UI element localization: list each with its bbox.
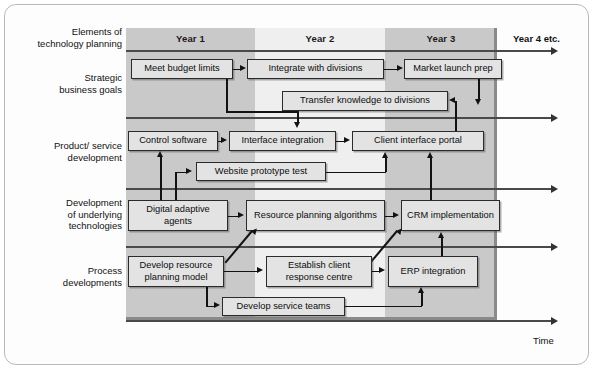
- time-axis-label: Time: [533, 335, 554, 346]
- row-label-line1: Process: [10, 265, 122, 277]
- row-label-line2: development: [10, 152, 122, 164]
- conn-interface-portal-arrow-icon: [344, 137, 350, 143]
- conn-erp-crm-arrow-icon: [438, 232, 444, 238]
- conn-agents-up2: [175, 172, 177, 200]
- row-divider-1: [126, 117, 551, 119]
- box-resource-planning-algorithms[interactable]: Resource planning algorithms: [246, 200, 385, 231]
- conn-portal-left-run10: [455, 101, 456, 103]
- box-label: CRM implementation: [407, 210, 494, 222]
- conn-integrate-market-arrow-icon: [397, 65, 403, 71]
- box-interface-integration[interactable]: Interface integration: [229, 131, 336, 151]
- conn-dst-erp-arrow-icon: [418, 287, 424, 293]
- conn-portal-up: [455, 101, 457, 131]
- row-label-line1: Product/ service: [10, 140, 122, 152]
- conn-website-right: [326, 172, 386, 174]
- box-label: Client interface portal: [374, 135, 462, 147]
- row-label-strategic-business-goals: Strategic business goals: [10, 72, 122, 95]
- box-develop-resource-planning-model[interactable]: Develop resource planning model: [128, 256, 224, 287]
- box-crm-implementation[interactable]: CRM implementation: [401, 200, 500, 231]
- box-integrate-with-divisions[interactable]: Integrate with divisions: [247, 59, 384, 79]
- row-divider-2: [126, 188, 551, 190]
- conn-agents-up: [160, 157, 162, 200]
- time-axis-arrow-icon: [551, 317, 558, 325]
- conn-integrate-market: [384, 69, 398, 71]
- conn-market-down-arrow-icon: [475, 99, 481, 105]
- box-meet-budget-limits[interactable]: Meet budget limits: [131, 59, 233, 79]
- row-label-process-developments: Process developments: [10, 265, 122, 288]
- conn-budget-right: [226, 111, 298, 113]
- row-label-product-service-development: Product/ service development: [10, 140, 122, 163]
- box-label: Integrate with divisions: [268, 63, 362, 75]
- box-transfer-knowledge-to-divisions[interactable]: Transfer knowledge to divisions: [282, 91, 448, 111]
- row-arrow-1-icon: [551, 114, 558, 122]
- box-label: Resource planning algorithms: [254, 210, 377, 222]
- conn-drpm-ecrc-arrow-icon: [257, 267, 263, 273]
- box-establish-client-response-centre[interactable]: Establish client response centre: [266, 256, 372, 287]
- row-label-line3: technologies: [10, 220, 122, 232]
- conn-rpa-up: [430, 158, 432, 200]
- box-market-launch-prep[interactable]: Market launch prep: [404, 59, 502, 79]
- box-label: Meet budget limits: [144, 63, 219, 75]
- box-label: Develop service teams: [236, 301, 330, 313]
- conn-drpm-down: [206, 287, 208, 307]
- conn-website-up: [385, 158, 387, 172]
- row-label-column: Strategic business goals Product/ servic…: [8, 0, 122, 372]
- box-label: Interface integration: [241, 135, 323, 147]
- box-label: Control software: [139, 135, 207, 147]
- box-label: Website prototype test: [215, 166, 307, 178]
- conn-budget-integrate-arrow-icon: [240, 65, 246, 71]
- row-divider-header: [126, 50, 551, 52]
- conn-budget-down: [226, 79, 228, 112]
- conn-website-portal-arrow-icon: [382, 152, 388, 158]
- column-header-year-1: Year 1: [126, 28, 255, 50]
- conn-control-interface-arrow-icon: [221, 137, 227, 143]
- row-label-line1: Strategic: [10, 72, 122, 84]
- conn-drpm-ecrc: [224, 271, 257, 273]
- box-label: Establish client response centre: [270, 260, 368, 283]
- box-erp-integration[interactable]: ERP integration: [388, 256, 478, 287]
- column-header-year-2: Year 2: [255, 28, 385, 50]
- box-label: Digital adaptive agents: [132, 204, 224, 227]
- conn-dst-right: [345, 306, 422, 308]
- year-4-label: Year 4 etc.: [513, 33, 560, 44]
- box-digital-adaptive-agents[interactable]: Digital adaptive agents: [128, 200, 228, 231]
- box-website-prototype-test[interactable]: Website prototype test: [196, 162, 326, 181]
- row-arrow-3-icon: [551, 243, 558, 251]
- conn-budget-down2-arrow-icon: [294, 122, 300, 128]
- row-label-line2: of underlying: [10, 209, 122, 221]
- box-develop-service-teams[interactable]: Develop service teams: [222, 297, 345, 316]
- conn-market-down: [478, 79, 480, 101]
- row-label-line2: business goals: [10, 84, 122, 96]
- time-axis-line: [126, 320, 551, 322]
- year-header-strip: Year 1 Year 2 Year 3: [126, 28, 497, 50]
- box-label: ERP integration: [401, 266, 466, 278]
- row-label-line2: developments: [10, 277, 122, 289]
- roadmap-diagram: Elements of technology planning Strategi…: [0, 0, 597, 372]
- row-arrow-2-icon: [551, 185, 558, 193]
- column-header-year-3: Year 3: [385, 28, 497, 50]
- conn-rpa-portal-arrow-icon: [427, 152, 433, 158]
- conn-portal-transfer-arrow-icon: [449, 97, 455, 103]
- conn-drpm-dst-arrow-icon: [214, 302, 220, 308]
- box-label: Market launch prep: [413, 63, 493, 75]
- conn-agents-website-arrow-icon: [186, 168, 192, 174]
- box-control-software[interactable]: Control software: [128, 131, 218, 151]
- box-client-interface-portal[interactable]: Client interface portal: [352, 131, 484, 151]
- conn-agents-rpa-arrow-icon: [238, 212, 244, 218]
- row-arrow-header-icon: [551, 47, 558, 55]
- row-divider-3: [126, 246, 551, 248]
- row-label-line1: Development: [10, 197, 122, 209]
- conn-rpa-crm-arrow-icon: [393, 212, 399, 218]
- conn-ecrc-erp-arrow-icon: [379, 267, 385, 273]
- conn-agents-right: [175, 172, 186, 174]
- box-label: Develop resource planning model: [132, 260, 220, 283]
- conn-dst-up: [421, 293, 423, 306]
- box-label: Transfer knowledge to divisions: [300, 95, 430, 107]
- conn-agents-up-arrow-icon: [157, 151, 163, 157]
- row-label-development-underlying-technologies: Development of underlying technologies: [10, 197, 122, 232]
